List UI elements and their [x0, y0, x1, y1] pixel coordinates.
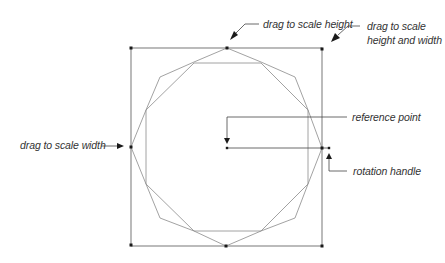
handle-top-right[interactable] — [321, 48, 324, 51]
handle-bottom-left[interactable] — [130, 244, 133, 247]
handle-top-middle[interactable] — [226, 47, 229, 50]
label-scale-width: drag to scale width — [20, 139, 106, 152]
transform-diagram: drag to scale height drag to scale heigh… — [0, 0, 445, 263]
handle-middle-left[interactable] — [130, 146, 133, 149]
reference-point-marker[interactable] — [226, 147, 228, 149]
rotation-handle-marker[interactable] — [328, 147, 330, 149]
leader-rotation-handle — [326, 153, 347, 171]
label-scale-height: drag to scale height — [263, 18, 353, 31]
label-scale-both-line1: drag to scale — [367, 20, 426, 33]
label-reference-point: reference point — [352, 111, 421, 124]
handle-middle-right[interactable] — [321, 147, 324, 150]
handle-top-left[interactable] — [130, 47, 133, 50]
handle-bottom-middle[interactable] — [225, 245, 228, 248]
label-scale-both-line2: height and width — [367, 34, 442, 47]
leader-reference-point — [224, 117, 347, 144]
leader-scale-height — [230, 24, 259, 40]
handle-bottom-right[interactable] — [321, 245, 324, 248]
label-rotation-handle: rotation handle — [353, 165, 421, 178]
